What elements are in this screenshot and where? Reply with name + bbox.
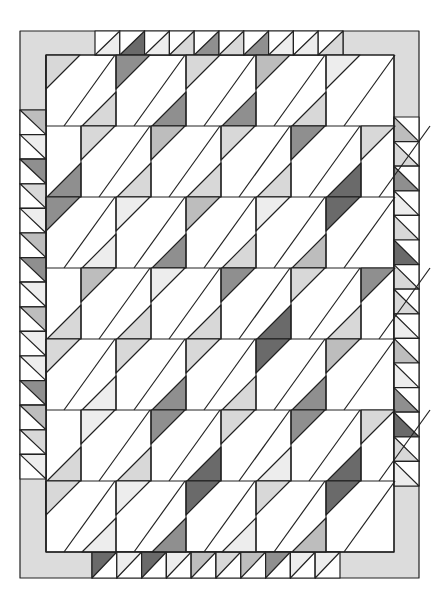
quilt-border: [20, 31, 419, 578]
quilt-diagram: [0, 0, 445, 606]
